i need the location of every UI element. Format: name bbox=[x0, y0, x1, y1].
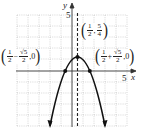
x-tick-5: 5 bbox=[122, 74, 127, 83]
y-axis-label: y bbox=[63, 1, 67, 10]
vertex-label: ( 12 , 54 ) bbox=[81, 23, 108, 38]
right-root-point bbox=[88, 69, 92, 73]
axes bbox=[16, 3, 136, 127]
y-tick-5: 5 bbox=[66, 11, 71, 20]
arrow-left-icon bbox=[48, 120, 53, 128]
vertex-point bbox=[76, 55, 80, 59]
right-root-label: ( 12 + √52 , 0 ) bbox=[95, 49, 134, 64]
left-root-point bbox=[63, 69, 67, 73]
left-root-label: ( 12 − √52 , 0 ) bbox=[1, 49, 40, 64]
x-axis-label: x bbox=[131, 73, 135, 82]
arrow-right-icon bbox=[103, 120, 108, 128]
parabola-graph bbox=[0, 0, 153, 136]
